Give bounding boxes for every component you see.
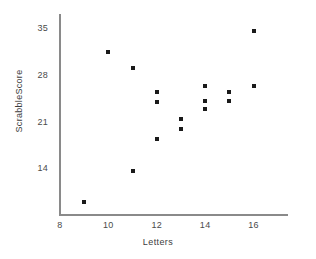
data-point: [155, 100, 159, 104]
data-point: [155, 90, 159, 94]
data-point: [155, 137, 159, 141]
data-point: [227, 99, 231, 103]
data-point: [131, 66, 135, 70]
y-tick-label: 14: [22, 163, 48, 173]
data-point: [179, 127, 183, 131]
y-tick-label: 35: [22, 23, 48, 33]
data-point: [179, 117, 183, 121]
data-point: [252, 84, 256, 88]
data-point: [106, 50, 110, 54]
x-tick-label: 8: [47, 220, 73, 230]
data-point: [203, 107, 207, 111]
x-axis-title: Letters: [0, 237, 316, 247]
data-point: [252, 29, 256, 33]
y-axis-title: ScrabbleScore: [14, 41, 24, 161]
x-tick-label: 10: [95, 220, 121, 230]
data-point: [203, 99, 207, 103]
data-point: [227, 90, 231, 94]
plot-area: [60, 14, 285, 215]
scatter-plot: 14212835 810121416 ScrabbleScore Letters: [0, 0, 316, 259]
y-tick-label: 21: [22, 117, 48, 127]
data-point: [131, 169, 135, 173]
data-point: [203, 84, 207, 88]
x-tick-label: 16: [241, 220, 267, 230]
x-tick-label: 12: [144, 220, 170, 230]
y-tick-label: 28: [22, 70, 48, 80]
x-tick-label: 14: [192, 220, 218, 230]
data-point: [82, 200, 86, 204]
